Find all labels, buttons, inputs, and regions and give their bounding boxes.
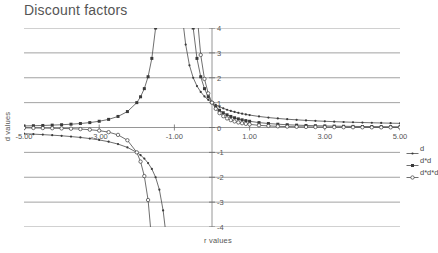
legend-label: d*d*d: [420, 168, 438, 177]
x-tick-label: 1.00: [242, 132, 257, 141]
y-tick-label: -4: [217, 223, 224, 232]
legend-swatch-icon: [406, 144, 419, 153]
x-tick-label: 3.00: [317, 132, 332, 141]
x-tick-label: 5.00: [393, 132, 408, 141]
y-tick-label: 4: [217, 24, 221, 33]
y-tick-label: 2: [217, 73, 221, 82]
legend-item-d-d-d[interactable]: d*d*d: [406, 166, 436, 178]
legend-swatch-icon: [406, 168, 419, 177]
y-tick-label: 3: [217, 48, 221, 57]
y-tick-label: 0: [217, 123, 221, 132]
y-tick-label: -3: [217, 198, 224, 207]
x-axis-label: r values: [0, 236, 436, 245]
y-tick-label: 1: [217, 98, 221, 107]
y-axis-label: d values: [3, 104, 12, 150]
legend-swatch-icon: [406, 156, 419, 165]
legend-item-d-d[interactable]: d*d: [406, 154, 436, 166]
x-tick-label: -5.00: [15, 132, 32, 141]
y-tick-label: -2: [217, 173, 224, 182]
chart-legend: dd*dd*d*d: [406, 142, 436, 178]
y-tick-label: -1: [217, 148, 224, 157]
x-tick-label: -3.00: [91, 132, 108, 141]
plot-svg: [24, 28, 400, 227]
chart-title: Discount factors: [24, 2, 128, 18]
x-tick-label: -1.00: [166, 132, 183, 141]
legend-label: d: [420, 144, 424, 153]
legend-label: d*d: [420, 156, 431, 165]
legend-item-d[interactable]: d: [406, 142, 436, 154]
plot-area: [24, 28, 400, 227]
